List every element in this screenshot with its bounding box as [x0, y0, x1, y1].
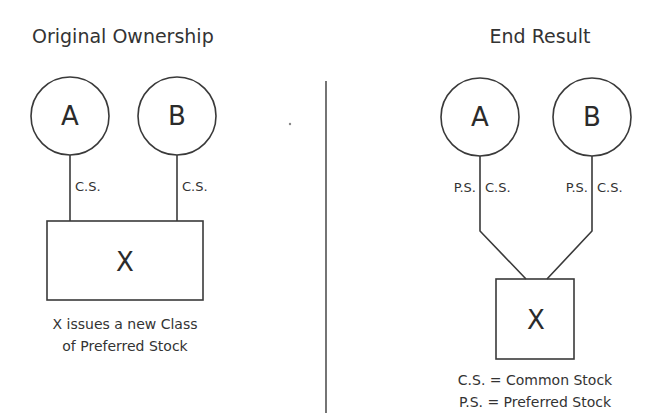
shareholder-b-cs-label: C.S.	[597, 180, 623, 195]
ownership-diagram: Original Ownership A B C.S. C.S. X X iss…	[0, 0, 654, 419]
shareholder-a-label: A	[471, 102, 489, 132]
shareholder-b-label: B	[583, 102, 601, 132]
shareholder-a-cs-label: C.S.	[485, 180, 511, 195]
left-panel-title: Original Ownership	[32, 25, 214, 47]
right-panel: End Result A B P.S. C.S. P.S. C.S. X C.S…	[441, 25, 631, 410]
company-x-label: X	[116, 247, 134, 277]
scan-speck	[289, 123, 291, 125]
shareholder-b-ps-label: P.S.	[566, 180, 588, 195]
left-panel: Original Ownership A B C.S. C.S. X X iss…	[31, 25, 216, 354]
shareholder-a-link	[480, 156, 526, 279]
shareholder-a-stock-label: C.S.	[75, 179, 101, 194]
shareholder-b-link	[547, 156, 592, 279]
left-caption-line2: of Preferred Stock	[62, 338, 188, 354]
shareholder-b-label: B	[168, 101, 186, 131]
shareholder-a-label: A	[61, 101, 79, 131]
right-panel-title: End Result	[490, 25, 591, 47]
company-x-label: X	[527, 305, 545, 335]
shareholder-a-ps-label: P.S.	[454, 180, 476, 195]
legend-preferred-stock: P.S. = Preferred Stock	[459, 394, 612, 410]
shareholder-b-stock-label: C.S.	[182, 179, 208, 194]
legend-common-stock: C.S. = Common Stock	[458, 372, 613, 388]
left-caption-line1: X issues a new Class	[53, 316, 198, 332]
